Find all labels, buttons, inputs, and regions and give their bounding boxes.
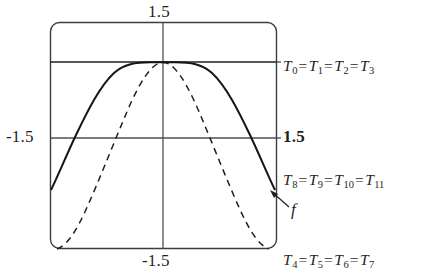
axis-tick-bottom: -1.5 [142,252,170,269]
series-label-t8-t11: T8=T9=T10=T11 [283,172,384,188]
axis-tick-left: -1.5 [6,128,34,145]
plot-canvas [0,0,421,275]
taylor-approximation-figure: 1.5 -1.5 -1.5 1.5 T0=T1=T2=T3 T8=T9=T10=… [0,0,421,275]
axis-tick-top: 1.5 [148,3,170,20]
series-label-t4-t7: T4=T5=T6=T7 [283,252,374,268]
function-label-f: f [291,201,296,218]
series-label-t0-t3: T0=T1=T2=T3 [283,58,374,74]
axis-tick-right: 1.5 [283,128,305,145]
